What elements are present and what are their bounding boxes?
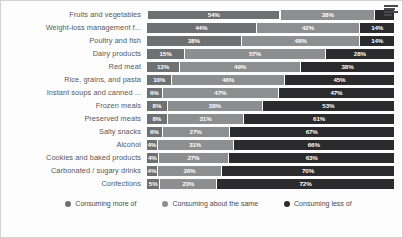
bar-segment[interactable]: 27% [158, 153, 229, 163]
bar-segment[interactable]: 6% [147, 127, 162, 137]
bar-track: 38%48%14% [147, 36, 394, 46]
segment-value-label: 47% [214, 90, 226, 96]
legend-label: Consuming less of [294, 200, 352, 208]
segment-value-label: 8% [153, 103, 162, 109]
segment-value-label: 4% [148, 168, 157, 174]
bar-segment[interactable]: 45% [284, 75, 394, 85]
bar-segment[interactable]: 28% [325, 49, 394, 59]
legend-label: Consuming about the same [172, 200, 258, 208]
stacked-bar-chart-card: Fruits and vegetables54%38%8%Weight-loss… [0, 0, 403, 238]
segment-value-label: 67% [306, 129, 318, 135]
menu-line-1 [384, 5, 398, 7]
category-label: Preserved meats [7, 113, 147, 125]
bar-track: 44%42%14% [147, 23, 394, 33]
bar-row: Frozen meals8%38%53% [7, 100, 394, 112]
bar-track: 8%38%53% [147, 101, 394, 111]
segment-value-label: 8% [153, 116, 162, 122]
bar-row: Instant soups and canned ...6%47%47% [7, 87, 394, 99]
bar-segment[interactable]: 54% [147, 10, 280, 20]
bar-segment[interactable]: 31% [167, 114, 244, 124]
bar-segment[interactable]: 70% [221, 166, 394, 176]
bar-segment[interactable]: 44% [147, 23, 256, 33]
bar-segment[interactable]: 31% [157, 140, 233, 150]
bar-segment[interactable]: 57% [184, 49, 325, 59]
bar-segment[interactable]: 13% [147, 62, 179, 72]
bar-segment[interactable]: 8% [147, 101, 167, 111]
segment-value-label: 46% [222, 77, 234, 83]
bar-segment[interactable]: 4% [147, 166, 157, 176]
bar-segment[interactable]: 38% [300, 62, 394, 72]
bar-segment[interactable]: 46% [171, 75, 283, 85]
segment-value-label: 14% [371, 25, 383, 31]
category-label: Salty snacks [7, 126, 147, 138]
segment-value-label: 49% [234, 64, 246, 70]
bar-row: Rice, grains, and pasta10%46%45% [7, 74, 394, 86]
bar-segment[interactable]: 14% [359, 36, 394, 46]
bar-track: 8%31%61% [147, 114, 394, 124]
segment-value-label: 5% [149, 181, 158, 187]
legend-item[interactable]: Consuming more of [65, 200, 136, 208]
bar-segment[interactable]: 8% [147, 114, 167, 124]
category-label: Instant soups and canned ... [7, 87, 147, 99]
segment-value-label: 6% [150, 129, 159, 135]
bar-segment[interactable]: 61% [243, 114, 394, 124]
hamburger-menu-icon[interactable] [384, 5, 398, 16]
bar-track: 6%27%67% [147, 127, 394, 137]
bar-segment[interactable]: 6% [147, 88, 162, 98]
segment-value-label: 53% [322, 103, 334, 109]
legend-color-dot [162, 201, 168, 207]
segment-value-label: 10% [153, 77, 165, 83]
bar-segment[interactable]: 4% [147, 153, 158, 163]
legend-item[interactable]: Consuming about the same [162, 200, 258, 208]
segment-value-label: 54% [208, 12, 220, 18]
bar-segment[interactable]: 66% [233, 140, 394, 150]
segment-value-label: 27% [187, 155, 199, 161]
bar-row: Confections5%23%72% [7, 178, 394, 190]
menu-line-4 [384, 14, 392, 16]
category-label: Confections [7, 178, 147, 190]
segment-value-label: 70% [302, 168, 314, 174]
bar-segment[interactable]: 47% [278, 88, 394, 98]
bar-track: 15%57%28% [147, 49, 394, 59]
segment-value-label: 6% [150, 90, 159, 96]
segment-value-label: 4% [148, 142, 157, 148]
bar-segment[interactable]: 4% [147, 140, 157, 150]
category-label: Fruits and vegetables [7, 9, 147, 21]
bar-track: 4%26%70% [147, 166, 394, 176]
segment-value-label: 27% [190, 129, 202, 135]
legend-item[interactable]: Consuming less of [284, 200, 352, 208]
segment-value-label: 28% [354, 51, 366, 57]
segment-value-label: 38% [209, 103, 221, 109]
bar-segment[interactable]: 48% [241, 36, 360, 46]
bar-segment[interactable]: 67% [229, 127, 394, 137]
bar-segment[interactable]: 27% [162, 127, 229, 137]
bar-segment[interactable]: 63% [228, 153, 394, 163]
bar-segment[interactable]: 5% [147, 179, 159, 189]
bar-track: 4%27%63% [147, 153, 394, 163]
bar-row: Carbonated / sugary drinks4%26%70% [7, 165, 394, 177]
segment-value-label: 57% [249, 51, 261, 57]
category-label: Cookies and baked products [7, 152, 147, 164]
category-label: Alcohol [7, 139, 147, 151]
segment-value-label: 31% [189, 142, 201, 148]
bar-segment[interactable]: 14% [359, 23, 394, 33]
bar-segment[interactable]: 47% [162, 88, 278, 98]
bar-segment[interactable]: 38% [147, 36, 241, 46]
segment-value-label: 13% [157, 64, 169, 70]
bar-segment[interactable]: 23% [159, 179, 216, 189]
bar-segment[interactable]: 15% [147, 49, 184, 59]
segment-value-label: 48% [295, 38, 307, 44]
bar-segment[interactable]: 10% [147, 75, 171, 85]
bar-segment[interactable]: 38% [280, 10, 374, 20]
bar-segment[interactable]: 38% [167, 101, 262, 111]
category-label: Frozen meals [7, 100, 147, 112]
bar-segment[interactable]: 42% [256, 23, 360, 33]
bar-segment[interactable]: 53% [262, 101, 394, 111]
segment-value-label: 72% [300, 181, 312, 187]
bar-segment[interactable]: 49% [179, 62, 300, 72]
legend-label: Consuming more of [75, 200, 136, 208]
bar-segment[interactable]: 72% [216, 179, 394, 189]
segment-value-label: 14% [371, 38, 383, 44]
segment-value-label: 38% [188, 38, 200, 44]
bar-segment[interactable]: 26% [157, 166, 221, 176]
